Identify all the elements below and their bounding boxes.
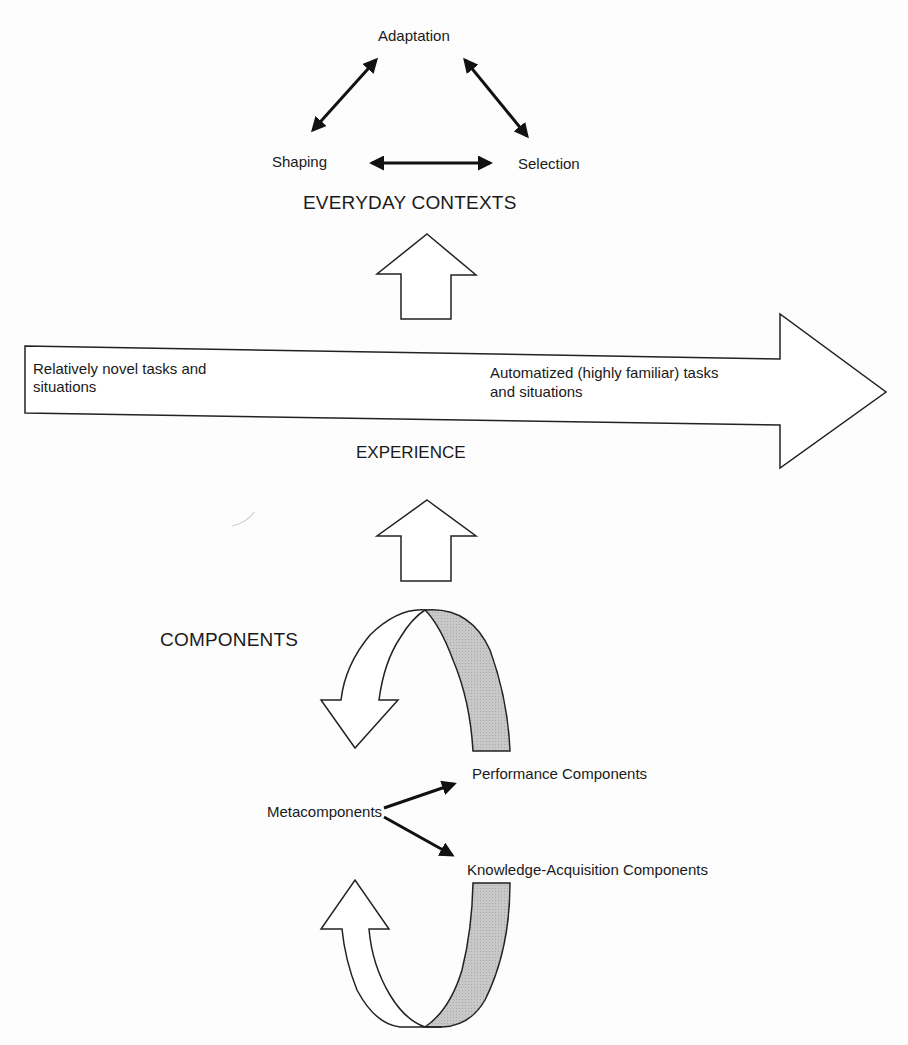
up-arrow-to-experience (377, 500, 476, 581)
experience-title: EXPERIENCE (356, 443, 466, 463)
metacomponents-label: Metacomponents (267, 803, 382, 821)
knowledge-acquisition-label: Knowledge-Acquisition Components (467, 861, 708, 879)
lower-loop-arrow (321, 880, 510, 1027)
meta-to-performance-arrow (384, 784, 454, 808)
novel-tasks-line2: situations (33, 378, 96, 396)
performance-components-label: Performance Components (472, 765, 647, 783)
meta-to-knowledge-arrow (384, 817, 452, 855)
adaptation-selection-arrow (465, 60, 527, 136)
components-title: COMPONENTS (160, 629, 298, 652)
automatized-tasks-line1: Automatized (highly familiar) tasks (490, 364, 718, 382)
upper-loop-arrow (321, 610, 510, 751)
adaptation-label: Adaptation (378, 27, 450, 45)
automatized-tasks-line2: and situations (490, 383, 583, 401)
diagram-canvas (0, 0, 908, 1045)
shaping-label: Shaping (272, 153, 327, 171)
adaptation-shaping-arrow (313, 60, 376, 130)
everyday-contexts-title: EVERYDAY CONTEXTS (303, 192, 517, 215)
novel-tasks-line1: Relatively novel tasks and (33, 360, 206, 378)
selection-label: Selection (518, 155, 580, 173)
up-arrow-to-contexts (377, 234, 476, 319)
